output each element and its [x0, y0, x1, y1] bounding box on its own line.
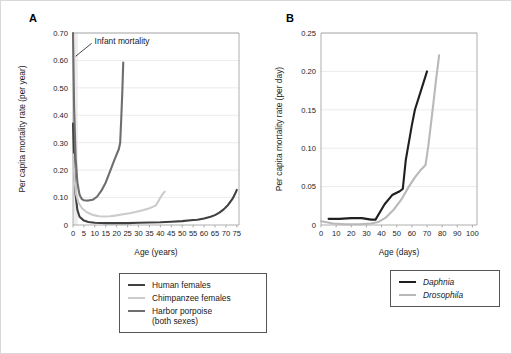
y-tick-label: 0.20: [301, 67, 316, 76]
legend-swatch: [128, 284, 145, 286]
x-tick-label: 65: [211, 229, 219, 238]
y-tick-label: 0: [64, 221, 68, 230]
y-tick-label: 0.70: [53, 29, 68, 38]
y-axis-title: Per capita mortality rate (per day): [274, 67, 284, 191]
x-tick-label: 50: [178, 229, 186, 238]
x-tick-label: 40: [156, 229, 164, 238]
y-tick-label: 0.60: [53, 56, 68, 65]
x-tick-label: 10: [91, 229, 99, 238]
legend-swatch: [128, 297, 145, 299]
legend-panel-b: DaphniaDrosophila: [390, 270, 500, 307]
series-line-harbor-porpoise-both-sexes: [73, 33, 123, 201]
x-tick-label: 15: [102, 229, 110, 238]
x-tick-label: 30: [362, 229, 370, 238]
x-tick-label: 30: [134, 229, 142, 238]
x-tick-label: 90: [453, 229, 461, 238]
y-tick-label: 0.20: [53, 166, 68, 175]
legend-swatch: [399, 281, 416, 283]
x-tick-label: 10: [332, 229, 340, 238]
x-tick-label: 35: [145, 229, 153, 238]
legend-swatch: [128, 310, 145, 312]
x-tick-label: 70: [423, 229, 431, 238]
y-axis-title: Per capita mortality rate (per year): [17, 65, 27, 192]
legend-panel-a: Human femalesChimpanzee femalesHarbor po…: [119, 273, 267, 333]
series-line-chimpanzee-females: [73, 154, 165, 216]
x-tick-label: 70: [222, 229, 230, 238]
x-tick-label: 0: [71, 229, 75, 238]
x-tick-label: 80: [438, 229, 446, 238]
chart-panel-b: 00.050.100.150.200.250102030405060708090…: [269, 19, 501, 279]
x-tick-label: 45: [167, 229, 175, 238]
chart-panel-a: 00.100.200.300.400.500.600.7005101520253…: [1, 19, 251, 279]
x-tick-label: 20: [347, 229, 355, 238]
x-tick-label: 50: [393, 229, 401, 238]
series-line-human-females: [73, 124, 237, 224]
series-line-daphnia: [329, 71, 427, 219]
legend-item: Daphnia: [399, 277, 490, 287]
y-tick-label: 0.30: [53, 139, 68, 148]
series-line-drosophila: [321, 55, 439, 224]
x-tick-label: 60: [408, 229, 416, 238]
x-tick-label: 20: [112, 229, 120, 238]
legend-item: Drosophila: [399, 290, 490, 300]
x-axis-title: Age (days): [379, 247, 420, 257]
legend-swatch: [399, 294, 416, 296]
x-tick-label: 40: [377, 229, 385, 238]
y-tick-label: 0.05: [301, 182, 316, 191]
x-tick-label: 5: [82, 229, 86, 238]
legend-item: Chimpanzee females: [128, 293, 257, 303]
x-tick-label: 100: [466, 229, 479, 238]
x-tick-label: 0: [319, 229, 323, 238]
x-tick-label: 75: [233, 229, 241, 238]
y-tick-label: 0.25: [301, 29, 316, 38]
legend-item: Human females: [128, 280, 257, 290]
y-tick-label: 0.10: [301, 144, 316, 153]
y-tick-label: 0.10: [53, 193, 68, 202]
annotation-infant-mortality: Infant mortality: [95, 36, 151, 46]
legend-label: Daphnia: [423, 277, 454, 287]
x-tick-label: 60: [200, 229, 208, 238]
legend-label: Harbor porpoise (both sexes): [152, 306, 212, 326]
figure-container: A B 00.100.200.300.400.500.600.700510152…: [0, 0, 512, 354]
y-tick-label: 0: [312, 221, 316, 230]
x-tick-label: 25: [123, 229, 131, 238]
legend-item: Harbor porpoise (both sexes): [128, 306, 257, 326]
y-tick-label: 0.15: [301, 106, 316, 115]
annotation-leader-line: [76, 43, 92, 56]
legend-label: Human females: [152, 280, 211, 290]
y-tick-label: 0.40: [53, 111, 68, 120]
x-tick-label: 55: [189, 229, 197, 238]
y-tick-label: 0.50: [53, 84, 68, 93]
x-axis-title: Age (years): [134, 247, 177, 257]
legend-label: Chimpanzee females: [152, 293, 231, 303]
legend-label: Drosophila: [423, 290, 463, 300]
